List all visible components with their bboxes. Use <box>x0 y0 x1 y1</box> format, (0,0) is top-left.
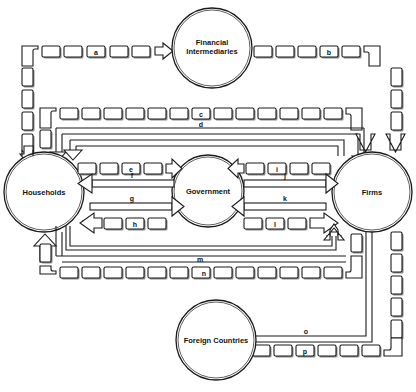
flow-channel-h: h <box>80 213 168 233</box>
node-firms: Firms <box>332 152 412 232</box>
flow-channel-c: c <box>40 108 362 150</box>
firms-label: Firms <box>362 188 382 197</box>
flow-channel-g: g <box>90 195 184 216</box>
node-financial-intermediaries: Financial Intermediaries <box>172 8 252 88</box>
flow-label-i: i <box>276 166 278 173</box>
flow-label-j: j <box>283 172 286 180</box>
flow-label-g: g <box>130 195 134 203</box>
foreign-label: Foreign Countries <box>184 336 249 345</box>
flow-channel-l: l <box>244 213 338 233</box>
flow-label-m: m <box>197 256 203 263</box>
government-label: Government <box>186 187 231 196</box>
financial-label-line2: Intermediaries <box>186 47 237 56</box>
flow-label-c: c <box>199 111 203 118</box>
flow-label-h: h <box>133 221 137 228</box>
flow-channel-k: k <box>232 195 326 216</box>
flow-label-a: a <box>94 49 98 56</box>
arrow-into-firms-c <box>356 134 375 152</box>
flow-label-k: k <box>283 195 287 202</box>
node-foreign-countries: Foreign Countries <box>176 300 256 380</box>
flow-label-b: b <box>327 49 331 56</box>
flow-label-o: o <box>304 328 308 335</box>
flow-label-p: p <box>303 348 307 356</box>
circular-flow-diagram: a b Financial Intermediaries <box>0 0 416 392</box>
households-label: Households <box>23 188 66 197</box>
arrow-into-firms-b <box>386 134 405 152</box>
flow-label-d: d <box>199 121 203 128</box>
financial-label-line1: Financial <box>196 38 229 47</box>
flow-label-n: n <box>202 270 206 277</box>
flow-label-l: l <box>274 221 276 228</box>
flow-channel-p: p <box>252 232 404 358</box>
node-households: Households <box>4 152 84 232</box>
flow-channel-i: i <box>228 159 332 178</box>
